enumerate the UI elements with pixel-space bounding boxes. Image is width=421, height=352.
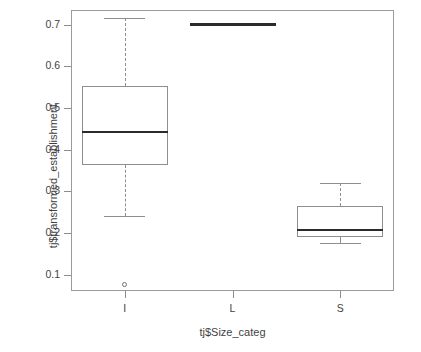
y-axis-tick-label-container: 0.6 xyxy=(14,66,60,80)
upper-whisker-cap-I xyxy=(104,18,145,19)
upper-whisker-I xyxy=(125,18,126,85)
x-axis-tick xyxy=(125,291,126,298)
y-axis-title: tj$transformed_establishment xyxy=(40,0,66,352)
y-axis-tick-label: 0.4 xyxy=(18,143,60,155)
y-axis-tick-label-container: 0.7 xyxy=(14,25,60,39)
lower-whisker-cap-S xyxy=(320,243,361,244)
y-axis-tick-label-container: 0.3 xyxy=(14,191,60,205)
y-axis-tick-label-container: 0.5 xyxy=(14,108,60,122)
x-axis-tick xyxy=(340,291,341,298)
x-axis-tick-label: S xyxy=(320,302,360,314)
y-axis-tick xyxy=(64,233,71,234)
box-L xyxy=(190,23,276,26)
y-axis-tick-label-container: 0.1 xyxy=(14,275,60,289)
x-axis-tick xyxy=(233,291,234,298)
y-axis-tick-label-container: 0.4 xyxy=(14,150,60,164)
y-axis-tick xyxy=(64,275,71,276)
y-axis-tick-label: 0.1 xyxy=(18,268,60,280)
boxplot-figure: tj$transformed_establishment 0.70.60.50.… xyxy=(0,0,421,352)
upper-whisker-S xyxy=(340,183,341,206)
y-axis-tick-label: 0.5 xyxy=(18,101,60,113)
y-axis-tick xyxy=(64,191,71,192)
x-axis-tick-label: L xyxy=(213,302,253,314)
lower-whisker-I xyxy=(125,165,126,216)
upper-whisker-cap-S xyxy=(320,183,361,184)
y-axis-tick-label: 0.6 xyxy=(18,59,60,71)
y-axis-tick-label: 0.2 xyxy=(18,226,60,238)
y-axis-tick xyxy=(64,25,71,26)
box-I xyxy=(82,86,168,166)
y-axis-tick xyxy=(64,66,71,67)
median-line-I xyxy=(82,131,168,133)
x-axis-title: tj$Size_categ xyxy=(71,326,394,338)
y-axis-tick-label-container: 0.2 xyxy=(14,233,60,247)
x-axis-tick-label: I xyxy=(105,302,145,314)
median-line-S xyxy=(297,229,383,231)
box-S xyxy=(297,206,383,237)
y-axis-tick-label: 0.7 xyxy=(18,18,60,30)
lower-whisker-cap-I xyxy=(104,216,145,217)
y-axis-tick xyxy=(64,150,71,151)
y-axis-tick xyxy=(64,108,71,109)
y-axis-tick-label: 0.3 xyxy=(18,184,60,196)
